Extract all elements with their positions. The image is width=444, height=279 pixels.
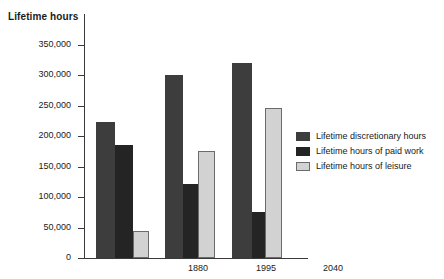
y-axis-title: Lifetime hours — [8, 11, 78, 22]
chart-legend: Lifetime discretionary hoursLifetime hou… — [296, 130, 426, 175]
y-axis-tick-label: 50,000 — [43, 223, 71, 232]
x-axis-label-2040: 2040 — [308, 263, 358, 273]
plot-area — [84, 14, 308, 258]
legend-swatch-icon — [296, 162, 310, 171]
bar-1995-series-1 — [165, 75, 183, 258]
legend-swatch-icon — [296, 132, 310, 141]
bar-2040-series-1 — [232, 63, 252, 258]
y-axis-tick-label: 0 — [66, 253, 71, 262]
y-axis-tick-label: 300,000 — [38, 70, 71, 79]
legend-item-label: Lifetime discretionary hours — [316, 131, 426, 142]
y-axis-tick-label: 150,000 — [38, 162, 71, 171]
x-axis-label-1880: 1880 — [173, 263, 223, 273]
legend-item: Lifetime hours of leisure — [296, 160, 426, 173]
legend-item-label: Lifetime hours of paid work — [316, 146, 424, 157]
legend-swatch-icon — [296, 147, 310, 156]
x-axis-line — [84, 258, 308, 259]
y-axis-tick-label: 350,000 — [38, 40, 71, 49]
legend-item: Lifetime hours of paid work — [296, 145, 426, 158]
y-axis-tick — [78, 258, 84, 259]
bar-2040-series-3 — [265, 108, 282, 258]
bar-chart: Lifetime hours 050,000100,000150,000200,… — [0, 0, 444, 279]
x-axis-label-1995: 1995 — [241, 263, 291, 273]
bar-1880-series-3 — [133, 231, 149, 258]
y-axis-tick-label: 100,000 — [38, 192, 71, 201]
bar-1995-series-3 — [198, 151, 215, 258]
y-axis-tick-label: 250,000 — [38, 101, 71, 110]
bar-2040-series-2 — [252, 212, 265, 258]
legend-item: Lifetime discretionary hours — [296, 130, 426, 143]
y-axis-tick-label: 200,000 — [38, 131, 71, 140]
bar-1995-series-2 — [183, 184, 198, 258]
bar-1880-series-2 — [115, 145, 133, 258]
bar-1880-series-1 — [96, 122, 115, 258]
legend-item-label: Lifetime hours of leisure — [316, 161, 412, 172]
